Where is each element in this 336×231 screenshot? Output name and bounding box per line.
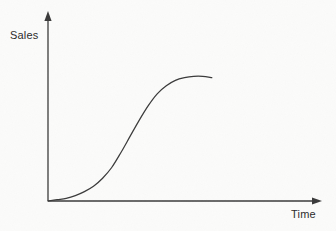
sales-time-chart: Sales Time bbox=[0, 0, 336, 231]
sales-curve-line bbox=[48, 76, 212, 201]
x-axis-label: Time bbox=[291, 208, 316, 220]
y-axis-arrow bbox=[44, 11, 51, 21]
chart-plot-area bbox=[0, 0, 336, 231]
x-axis-arrow bbox=[312, 197, 322, 204]
y-axis-label: Sales bbox=[10, 29, 39, 41]
